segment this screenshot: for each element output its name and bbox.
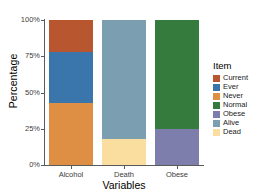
legend-item-label: Alive xyxy=(223,119,239,127)
legend: Item CurrentEverNeverNormalObeseAliveDea… xyxy=(213,60,277,137)
stacked-bar-chart: Percentage 100%75%50%25%0% AlcoholDeathO… xyxy=(0,0,278,192)
bar-segment-current xyxy=(49,20,93,52)
legend-item-ever[interactable]: Ever xyxy=(213,83,277,91)
legend-item-label: Current xyxy=(223,74,248,82)
legend-item-obese[interactable]: Obese xyxy=(213,110,277,118)
legend-item-never[interactable]: Never xyxy=(213,92,277,100)
bar-obese xyxy=(155,20,199,165)
legend-item-label: Never xyxy=(223,92,243,100)
legend-swatch-icon xyxy=(213,93,220,100)
bar-segment-dead xyxy=(102,139,146,165)
legend-swatch-icon xyxy=(213,102,220,109)
y-axis-tick-labels: 100%75%50%25%0% xyxy=(14,0,40,192)
x-axis-tick-label: Alcohol xyxy=(41,170,101,179)
legend-title: Item xyxy=(213,60,277,71)
y-axis-tick-mark xyxy=(41,56,44,57)
bar-alcohol xyxy=(49,20,93,165)
y-axis-tick-label: 75% xyxy=(14,52,40,60)
y-axis-tick-label: 100% xyxy=(14,16,40,24)
bar-segment-alive xyxy=(102,20,146,139)
legend-items: CurrentEverNeverNormalObeseAliveDead xyxy=(213,74,277,136)
legend-item-label: Ever xyxy=(223,83,238,91)
bar-segment-obese xyxy=(155,129,199,165)
x-axis-tick-label: Obese xyxy=(147,170,207,179)
x-axis-title: Variables xyxy=(45,179,203,191)
y-axis-tick-mark xyxy=(41,93,44,94)
x-axis-tick-label: Death xyxy=(94,170,154,179)
x-axis-tick-mark xyxy=(71,166,72,169)
legend-swatch-icon xyxy=(213,120,220,127)
bar-segment-normal xyxy=(155,20,199,129)
y-axis-tick-mark xyxy=(41,165,44,166)
legend-swatch-icon xyxy=(213,111,220,118)
y-axis-tick-mark xyxy=(41,129,44,130)
y-axis-tick-label: 25% xyxy=(14,125,40,133)
bar-death xyxy=(102,20,146,165)
y-axis-tick-label: 50% xyxy=(14,89,40,97)
plot-area xyxy=(45,20,203,165)
bar-segment-ever xyxy=(49,52,93,103)
legend-item-label: Normal xyxy=(223,101,247,109)
legend-swatch-icon xyxy=(213,84,220,91)
y-axis-tick-mark xyxy=(41,20,44,21)
legend-item-label: Obese xyxy=(223,110,245,118)
x-axis-tick-mark xyxy=(177,166,178,169)
legend-swatch-icon xyxy=(213,129,220,136)
legend-item-alive[interactable]: Alive xyxy=(213,119,277,127)
y-axis-tick-label: 0% xyxy=(14,161,40,169)
legend-item-dead[interactable]: Dead xyxy=(213,128,277,136)
bar-segment-never xyxy=(49,103,93,165)
x-axis-tick-mark xyxy=(124,166,125,169)
legend-item-current[interactable]: Current xyxy=(213,74,277,82)
legend-item-label: Dead xyxy=(223,128,241,136)
legend-item-normal[interactable]: Normal xyxy=(213,101,277,109)
legend-swatch-icon xyxy=(213,75,220,82)
